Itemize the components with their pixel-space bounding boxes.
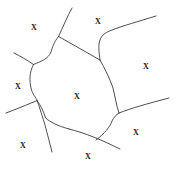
- edge-upper-right-wave: [99, 16, 156, 60]
- region-label-bottom-center: X: [85, 153, 91, 161]
- edge-lower-left-spur: [37, 101, 52, 153]
- edge-bottom-diagonal: [69, 129, 120, 149]
- region-label-top-left: X: [31, 24, 37, 32]
- cell-diagram: X X X X X X X X: [0, 0, 177, 169]
- edge-right-lower-arc: [100, 60, 119, 113]
- edge-top-spur: [59, 8, 73, 37]
- edge-bottom-center-up: [96, 113, 119, 140]
- region-label-right: X: [143, 63, 149, 71]
- region-label-top-center: X: [95, 18, 101, 26]
- edge-left-inner: [30, 65, 37, 101]
- region-label-bottom-right: X: [133, 129, 139, 137]
- cell-diagram-canvas: [0, 0, 177, 169]
- region-label-bottom-left: X: [20, 142, 26, 150]
- region-label-left: X: [15, 83, 21, 91]
- edge-upper-left-arc: [34, 37, 59, 65]
- region-label-center: X: [74, 93, 80, 101]
- edge-left-outer-top: [14, 53, 34, 65]
- edge-top-right-diagonal: [59, 37, 101, 61]
- edge-right-outer: [119, 98, 169, 113]
- edge-left-outer-bottom: [6, 101, 37, 114]
